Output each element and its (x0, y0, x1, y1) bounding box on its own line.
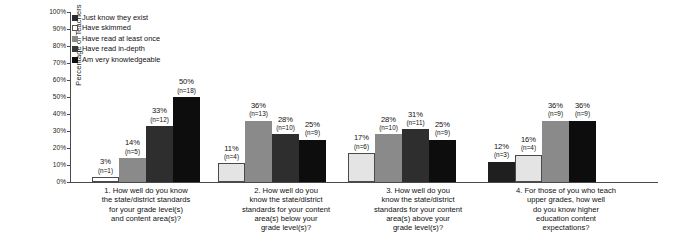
bar-fill (245, 121, 272, 182)
y-axis-tick-label: 30% (53, 126, 66, 136)
bar-value-label: 12%(n=3) (494, 143, 509, 160)
bar-value-label: 50%(n=18) (177, 78, 196, 95)
bar-value-label: 25%(n=9) (435, 121, 450, 138)
bar[interactable]: 31%(n=11) (402, 129, 429, 182)
category-caption-line: education content (480, 214, 652, 223)
y-axis-tick-labels: 0%10%20%30%40%50%60%70%80%90%100% (36, 12, 66, 182)
category-caption-line: 2. How well do you (212, 186, 360, 195)
bar-fill (272, 134, 299, 182)
category-caption-line: know the state/district (212, 195, 360, 204)
bar-value-label: 14%(n=5) (125, 139, 140, 156)
bar-fill (348, 153, 375, 182)
bar-fill (542, 121, 569, 182)
bar[interactable]: 25%(n=9) (429, 140, 456, 183)
bar[interactable]: 11%(n=4) (218, 163, 245, 182)
bar-percent-label: 16% (521, 136, 536, 144)
y-axis-tick-label: 40% (53, 109, 66, 119)
bar-fill (173, 97, 200, 182)
bar[interactable]: 3%(n=1) (92, 177, 119, 182)
category-caption: 3. How well do youknow the state/distric… (342, 186, 494, 232)
category-caption-line: standards for your content (212, 205, 360, 214)
bar-fill (146, 126, 173, 182)
bar[interactable]: 50%(n=18) (173, 97, 200, 182)
category-caption-line: area(s) above your (342, 214, 494, 223)
bar[interactable]: 36%(n=9) (569, 121, 596, 182)
bar-count-label: (n=1) (98, 167, 113, 175)
y-axis-tick-label: 60% (53, 75, 66, 85)
bar-value-label: 28%(n=10) (276, 116, 295, 133)
bar[interactable]: 16%(n=4) (515, 155, 542, 182)
bar-count-label: (n=9) (575, 110, 590, 118)
category-caption-line: 1. How well do you know (72, 186, 220, 195)
bar-fill (299, 140, 326, 183)
bar-percent-label: 36% (249, 102, 268, 110)
bar[interactable]: 14%(n=5) (119, 158, 146, 182)
bar-value-label: 11%(n=4) (224, 145, 239, 162)
y-axis-tick-label: 100% (49, 7, 66, 17)
bar-percent-label: 12% (494, 143, 509, 151)
bar-percent-label: 50% (177, 78, 196, 86)
bar-percent-label: 17% (354, 134, 369, 142)
bar-percent-label: 28% (379, 116, 398, 124)
bar-percent-label: 36% (575, 102, 590, 110)
category-caption: 1. How well do you knowthe state/distric… (72, 186, 220, 223)
category-caption-line: for your grade level(s) (72, 205, 220, 214)
bar-value-label: 36%(n=9) (548, 102, 563, 119)
bar-group: 11%(n=4)36%(n=13)28%(n=10)25%(n=9) (218, 12, 326, 182)
y-axis-tick-label: 50% (53, 92, 66, 102)
bar[interactable]: 33%(n=12) (146, 126, 173, 182)
bar-percent-label: 28% (276, 116, 295, 124)
bar-value-label: 16%(n=4) (521, 136, 536, 153)
bar-value-label: 25%(n=9) (305, 121, 320, 138)
bar-count-label: (n=9) (548, 110, 563, 118)
bar[interactable]: 28%(n=10) (375, 134, 402, 182)
bar-value-label: 28%(n=10) (379, 116, 398, 133)
category-caption-line: know the state/district (342, 195, 494, 204)
bar-group: 17%(n=6)28%(n=10)31%(n=11)25%(n=9) (348, 12, 456, 182)
category-caption: 2. How well do youknow the state/distric… (212, 186, 360, 232)
y-axis-tick-label: 0% (56, 177, 66, 187)
bar-value-label: 17%(n=6) (354, 134, 369, 151)
bar-percent-label: 25% (435, 121, 450, 129)
category-caption-line: and content area(s)? (72, 214, 220, 223)
bar-count-label: (n=12) (150, 116, 169, 124)
category-caption-line: standards for your content (342, 205, 494, 214)
bar-group: 12%(n=3)16%(n=4)36%(n=9)36%(n=9) (488, 12, 596, 182)
category-caption: 4. For those of you who teachupper grade… (480, 186, 652, 232)
bar-percent-label: 3% (98, 158, 113, 166)
y-axis-tick-label: 70% (53, 58, 66, 68)
bar-fill (429, 140, 456, 183)
category-caption-line: do you know higher (480, 205, 652, 214)
bar-fill (218, 163, 245, 182)
bar-count-label: (n=11) (406, 119, 424, 127)
y-axis-tick-label: 10% (53, 160, 66, 170)
bar-fill (515, 155, 542, 182)
bar-count-label: (n=18) (177, 87, 196, 95)
category-caption-line: the state/district standards (72, 195, 220, 204)
bar-percent-label: 33% (150, 107, 169, 115)
bar-value-label: 36%(n=13) (249, 102, 268, 119)
bar-count-label: (n=13) (249, 110, 268, 118)
bar-fill (569, 121, 596, 182)
category-caption-line: area(s) below your (212, 214, 360, 223)
bar-count-label: (n=3) (494, 151, 509, 159)
bar-count-label: (n=4) (521, 144, 536, 152)
y-axis-tick-label: 20% (53, 143, 66, 153)
bar-fill (488, 162, 515, 182)
category-caption-line: expectations? (480, 223, 652, 232)
bar[interactable]: 36%(n=13) (245, 121, 272, 182)
bar-percent-label: 31% (406, 111, 424, 119)
bar[interactable]: 25%(n=9) (299, 140, 326, 183)
bar[interactable]: 36%(n=9) (542, 121, 569, 182)
bar-fill (375, 134, 402, 182)
bar[interactable]: 28%(n=10) (272, 134, 299, 182)
bar-count-label: (n=10) (276, 124, 295, 132)
bar-value-label: 33%(n=12) (150, 107, 169, 124)
bar-count-label: (n=4) (224, 153, 239, 161)
bar-value-label: 3%(n=1) (98, 158, 113, 175)
category-caption-line: 3. How well do you (342, 186, 494, 195)
bar-fill (92, 177, 119, 182)
bar[interactable]: 17%(n=6) (348, 153, 375, 182)
category-caption-line: grade level(s)? (342, 223, 494, 232)
bar[interactable]: 12%(n=3) (488, 162, 515, 182)
